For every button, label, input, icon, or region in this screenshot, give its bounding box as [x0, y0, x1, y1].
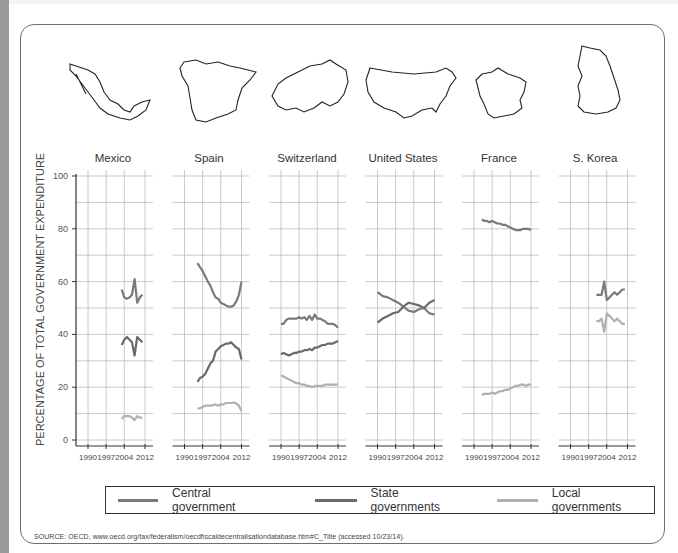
x-tick-label: 1997 [580, 453, 598, 462]
panel-united-states: 1990199720042012 [366, 170, 444, 462]
legend-item-central: Central government [118, 486, 253, 514]
x-tick-label: 1990 [272, 453, 290, 462]
series-local-governments [596, 313, 625, 332]
panel-switzerland: 1990199720042012 [269, 170, 347, 462]
x-tick-label: 2012 [619, 453, 637, 462]
panel-france: 1990199720042012 [462, 170, 540, 462]
legend-item-local: Local governments [497, 486, 632, 514]
x-tick-label: 1997 [290, 453, 308, 462]
series-central-government [596, 282, 625, 301]
y-tick-label: 60 [58, 277, 68, 287]
x-tick-label: 1997 [194, 453, 212, 462]
x-tick-label: 2004 [115, 453, 133, 462]
x-tick-label: 2004 [212, 453, 230, 462]
x-tick-label: 1997 [387, 453, 405, 462]
series-central-government [281, 315, 338, 328]
x-tick-label: 1997 [97, 453, 115, 462]
legend-label-local: Local governments [552, 486, 632, 514]
y-tick-label: 0 [63, 435, 68, 445]
y-axis: 020406080100 [53, 171, 76, 446]
x-tick-label: 1990 [176, 453, 194, 462]
small-multiples-chart: 1990199720042012199019972004201219901997… [0, 0, 678, 553]
series-state-governments [281, 341, 338, 356]
s-korea-map-icon [578, 46, 620, 114]
mexico-map-icon [70, 64, 150, 120]
panel-s-korea: 1990199720042012 [559, 170, 637, 462]
x-tick-label: 1990 [465, 453, 483, 462]
x-tick-label: 2012 [522, 453, 540, 462]
y-tick-label: 80 [58, 224, 68, 234]
series-local-governments [281, 375, 338, 387]
legend-swatch-central [118, 499, 158, 502]
legend-swatch-local [497, 499, 538, 502]
source-note: SOURCE: OECD, www.oecd.org/tax/federalis… [34, 533, 405, 540]
x-tick-label: 1990 [79, 453, 97, 462]
x-tick-label: 2004 [308, 453, 326, 462]
x-tick-label: 2004 [501, 453, 519, 462]
y-tick-label: 100 [53, 171, 68, 181]
country-maps [70, 46, 620, 122]
x-tick-label: 2012 [233, 453, 251, 462]
x-tick-label: 2012 [426, 453, 444, 462]
y-tick-label: 20 [58, 382, 68, 392]
legend-label-state: State governments [371, 486, 451, 514]
x-tick-label: 2004 [405, 453, 423, 462]
series-local-governments [198, 403, 242, 412]
x-tick-label: 1997 [483, 453, 501, 462]
legend-item-state: State governments [315, 486, 450, 514]
x-tick-label: 2012 [136, 453, 154, 462]
panel-mexico: 1990199720042012 [76, 170, 154, 462]
legend-swatch-state [315, 499, 356, 502]
united-states-map-icon [366, 68, 456, 118]
spain-map-icon [180, 60, 256, 122]
y-tick-label: 40 [58, 329, 68, 339]
france-map-icon [476, 68, 526, 118]
chart-legend: Central government State governments Loc… [105, 486, 655, 514]
x-tick-label: 1990 [562, 453, 580, 462]
x-tick-label: 2012 [329, 453, 347, 462]
series-local-governments [122, 416, 143, 420]
series-local-governments [482, 385, 531, 396]
legend-label-central: Central government [172, 486, 253, 514]
x-tick-label: 2004 [598, 453, 616, 462]
series-central-government [198, 263, 242, 307]
panel-spain: 1990199720042012 [173, 170, 251, 462]
x-tick-label: 1990 [369, 453, 387, 462]
series-state-governments [198, 342, 242, 382]
series-state-governments [122, 337, 143, 356]
switzerland-map-icon [272, 60, 348, 112]
series-central-government [122, 279, 143, 303]
